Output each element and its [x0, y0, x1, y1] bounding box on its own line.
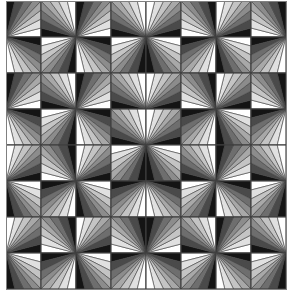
fan-cell: [76, 181, 111, 217]
fan-cell: [181, 73, 216, 109]
fan-cell: [111, 109, 146, 145]
fan-cell: [251, 217, 286, 253]
fan-cell: [181, 253, 216, 289]
fan-cell: [181, 1, 216, 37]
fan-cell: [6, 109, 41, 145]
fan-cell: [41, 73, 76, 109]
fan-cell: [216, 145, 251, 181]
fan-cell: [216, 217, 251, 253]
fan-cell: [181, 217, 216, 253]
fan-cell: [6, 1, 41, 37]
fan-cell: [111, 1, 146, 37]
fan-cell: [76, 1, 111, 37]
fan-cell: [76, 217, 111, 253]
fan-cell: [251, 253, 286, 289]
fan-cell: [76, 253, 111, 289]
fan-cell: [111, 73, 146, 109]
fan-cell: [111, 253, 146, 289]
fan-cell: [216, 1, 251, 37]
fan-cell: [251, 37, 286, 73]
fan-cell: [146, 145, 181, 181]
fan-cell: [146, 217, 181, 253]
fan-cell: [41, 37, 76, 73]
fan-cell: [146, 109, 181, 145]
fan-cell: [216, 253, 251, 289]
fan-cell: [251, 145, 286, 181]
fan-cell: [6, 253, 41, 289]
fan-cell: [76, 145, 111, 181]
fan-cell: [111, 217, 146, 253]
pattern-canvas: [6, 1, 287, 290]
fan-cell: [41, 217, 76, 253]
fan-cell: [6, 73, 41, 109]
fan-cell: [251, 1, 286, 37]
fan-cell: [41, 253, 76, 289]
fan-cell: [41, 181, 76, 217]
fan-tile-pattern: [6, 1, 287, 290]
fan-cell: [216, 109, 251, 145]
fan-cell: [216, 73, 251, 109]
fan-cell: [251, 109, 286, 145]
fan-cell: [251, 181, 286, 217]
fan-cell: [216, 37, 251, 73]
fan-cell: [146, 37, 181, 73]
fan-cell: [181, 37, 216, 73]
fan-cell: [41, 1, 76, 37]
fan-cell: [76, 37, 111, 73]
fan-cell: [6, 181, 41, 217]
fan-cell: [181, 181, 216, 217]
fan-cell: [76, 73, 111, 109]
fan-cell: [6, 217, 41, 253]
fan-cell: [146, 1, 181, 37]
fan-cell: [181, 109, 216, 145]
fan-cell: [41, 109, 76, 145]
fan-cell: [76, 109, 111, 145]
fan-cell: [216, 181, 251, 217]
fan-cell: [111, 145, 146, 181]
fan-cell: [111, 181, 146, 217]
fan-cell: [6, 37, 41, 73]
fan-cell: [146, 181, 181, 217]
fan-cell: [251, 73, 286, 109]
fan-cell: [6, 145, 41, 181]
fan-cell: [146, 73, 181, 109]
fan-cell: [41, 145, 76, 181]
fan-cell: [146, 253, 181, 289]
fan-cell: [181, 145, 216, 181]
fan-cell: [111, 37, 146, 73]
